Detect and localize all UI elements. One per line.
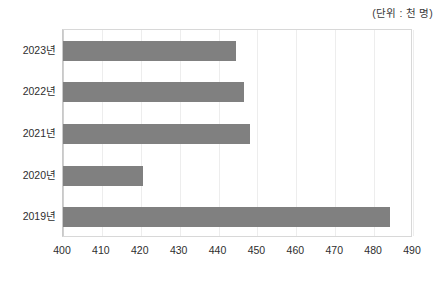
- x-axis-tick-label: 410: [92, 243, 110, 257]
- y-axis-tick-label: 2021년: [23, 123, 56, 143]
- bar[interactable]: [63, 41, 236, 61]
- bar[interactable]: [63, 207, 390, 227]
- x-axis-tick-label: 400: [53, 243, 71, 257]
- x-axis-tick-label: 480: [364, 243, 382, 257]
- x-axis-tick-label: 490: [403, 243, 421, 257]
- bar-row[interactable]: [63, 82, 244, 102]
- x-axis-labels: 400410420430440450460470480490: [62, 243, 412, 259]
- unit-annotation: (단위 : 천 명): [372, 5, 433, 20]
- bar-row[interactable]: [63, 207, 390, 227]
- x-axis-tick-label: 470: [325, 243, 343, 257]
- y-axis-tick-label: 2023년: [23, 40, 56, 60]
- x-axis-tick-label: 420: [131, 243, 149, 257]
- gridline: [413, 30, 414, 236]
- bar-row[interactable]: [63, 166, 143, 186]
- x-axis-tick-label: 450: [248, 243, 266, 257]
- y-axis-labels: 2023년2022년2021년2020년2019년: [0, 29, 56, 237]
- chart-plot-area: [62, 29, 412, 237]
- y-axis-tick-label: 2019년: [23, 206, 56, 226]
- bar-row[interactable]: [63, 41, 236, 61]
- bar-series: [63, 30, 411, 236]
- bar-row[interactable]: [63, 124, 250, 144]
- y-axis-tick-label: 2020년: [23, 165, 56, 185]
- x-axis-tick-label: 430: [170, 243, 188, 257]
- y-axis-tick-label: 2022년: [23, 81, 56, 101]
- bar[interactable]: [63, 82, 244, 102]
- bar[interactable]: [63, 166, 143, 186]
- bar[interactable]: [63, 124, 250, 144]
- x-axis-tick-label: 440: [209, 243, 227, 257]
- x-axis-tick-label: 460: [287, 243, 305, 257]
